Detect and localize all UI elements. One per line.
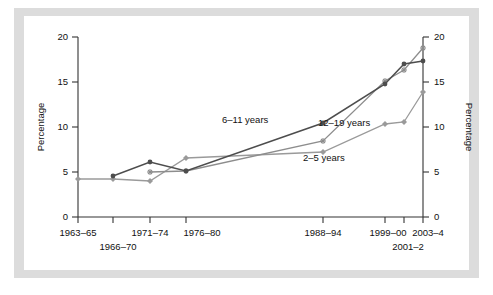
line-chart: 20 15 10 5 0 20 15 10 5 0 Percentage Per… — [0, 0, 493, 295]
y-right-tick-20: 20 — [434, 31, 445, 42]
y-left-tick-0: 0 — [63, 211, 68, 222]
y-left-axis-title: Percentage — [35, 103, 46, 152]
x-tick-1966-70: 1966–70 — [100, 241, 137, 252]
axis-bottom — [78, 217, 423, 223]
axis-left — [72, 37, 78, 217]
y-right-tick-5: 5 — [434, 166, 439, 177]
series-label-2-5-years: 2–5 years — [303, 152, 345, 163]
x-tick-1963-65: 1963–65 — [60, 227, 97, 238]
y-right-axis-title: Percentage — [464, 103, 475, 152]
series-6-11-years — [147, 45, 426, 175]
x-tick-2003-4: 2003–4 — [412, 227, 444, 238]
y-right-tick-15: 15 — [434, 76, 445, 87]
series-6-11-years-markers — [147, 45, 426, 175]
y-left-tick-20: 20 — [57, 31, 68, 42]
axis-right — [423, 37, 429, 217]
series-label-6-11-years: 6–11 years — [222, 114, 269, 125]
x-tick-1976-80: 1976–80 — [184, 227, 221, 238]
y-left-tick-10: 10 — [57, 121, 68, 132]
series-label-12-19-years: 12–19 years — [318, 117, 371, 128]
chart-page: 20 15 10 5 0 20 15 10 5 0 Percentage Per… — [0, 0, 493, 295]
y-left-tick-15: 15 — [57, 76, 68, 87]
x-tick-1999-00: 1999–00 — [370, 227, 407, 238]
y-right-tick-0: 0 — [434, 211, 439, 222]
x-tick-2001-2: 2001–2 — [392, 241, 424, 252]
x-tick-1971-74: 1971–74 — [132, 227, 169, 238]
x-tick-1988-94: 1988–94 — [305, 227, 342, 238]
y-right-tick-10: 10 — [434, 121, 445, 132]
y-left-tick-5: 5 — [63, 166, 68, 177]
